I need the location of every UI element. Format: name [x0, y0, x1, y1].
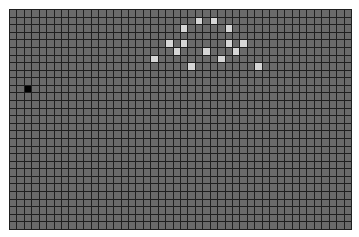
grid-cell[interactable]	[240, 71, 246, 78]
grid-cell[interactable]	[144, 101, 150, 108]
grid-cell[interactable]	[136, 101, 142, 108]
grid-cell[interactable]	[151, 162, 157, 169]
grid-cell[interactable]	[196, 33, 202, 40]
grid-cell[interactable]	[218, 147, 224, 154]
grid-cell[interactable]	[337, 78, 343, 85]
grid-cell[interactable]	[166, 147, 172, 154]
grid-cell[interactable]	[114, 10, 120, 17]
grid-cell[interactable]	[293, 40, 299, 47]
grid-cell[interactable]	[166, 63, 172, 70]
grid-cell[interactable]	[255, 40, 261, 47]
grid-cell[interactable]	[240, 25, 246, 32]
grid-cell[interactable]	[114, 162, 120, 169]
grid-cell[interactable]	[293, 78, 299, 85]
grid-cell[interactable]	[62, 10, 68, 17]
grid-cell[interactable]	[270, 25, 276, 32]
grid-cell[interactable]	[203, 192, 209, 199]
grid-cell[interactable]	[99, 78, 105, 85]
grid-cell[interactable]	[114, 101, 120, 108]
grid-cell[interactable]	[278, 131, 284, 138]
grid-cell[interactable]	[77, 109, 83, 116]
grid-cell[interactable]	[114, 56, 120, 63]
grid-cell[interactable]	[144, 93, 150, 100]
grid-cell[interactable]	[263, 93, 269, 100]
grid-cell[interactable]	[211, 40, 217, 47]
grid-cell[interactable]	[255, 177, 261, 184]
grid-cell[interactable]	[99, 71, 105, 78]
grid-cell[interactable]	[330, 33, 336, 40]
grid-cell[interactable]	[25, 169, 31, 176]
grid-cell[interactable]	[107, 215, 113, 222]
grid-cell[interactable]	[285, 33, 291, 40]
grid-cell[interactable]	[270, 215, 276, 222]
grid-cell[interactable]	[151, 124, 157, 131]
grid-cell[interactable]	[151, 93, 157, 100]
grid-cell[interactable]	[226, 154, 232, 161]
grid-cell[interactable]	[114, 116, 120, 123]
grid-cell[interactable]	[25, 222, 31, 229]
grid-cell[interactable]	[255, 222, 261, 229]
grid-cell[interactable]	[315, 154, 321, 161]
grid-cell[interactable]	[307, 124, 313, 131]
grid-cell[interactable]	[77, 207, 83, 214]
grid-cell[interactable]	[233, 192, 239, 199]
grid-cell[interactable]	[32, 215, 38, 222]
grid-cell[interactable]	[211, 56, 217, 63]
grid-cell[interactable]	[25, 63, 31, 70]
grid-cell[interactable]	[285, 177, 291, 184]
grid-cell[interactable]	[166, 184, 172, 191]
grid-cell[interactable]	[315, 78, 321, 85]
grid-cell[interactable]	[255, 169, 261, 176]
grid-cell[interactable]	[69, 124, 75, 131]
grid-cell[interactable]	[233, 33, 239, 40]
grid-cell[interactable]	[196, 147, 202, 154]
grid-cell[interactable]	[114, 207, 120, 214]
grid-cell[interactable]	[337, 116, 343, 123]
grid-cell[interactable]	[99, 131, 105, 138]
grid-cell[interactable]	[62, 93, 68, 100]
grid-cell[interactable]	[114, 147, 120, 154]
grid-cell[interactable]	[122, 33, 128, 40]
grid-cell[interactable]	[345, 200, 351, 207]
grid-cell[interactable]	[203, 215, 209, 222]
grid-cell[interactable]	[285, 101, 291, 108]
grid-cell[interactable]	[263, 10, 269, 17]
grid-cell[interactable]	[92, 18, 98, 25]
grid-cell[interactable]	[255, 131, 261, 138]
alive-cell[interactable]	[174, 48, 180, 55]
grid-cell[interactable]	[144, 184, 150, 191]
grid-cell[interactable]	[188, 177, 194, 184]
grid-cell[interactable]	[211, 116, 217, 123]
grid-cell[interactable]	[248, 40, 254, 47]
grid-cell[interactable]	[181, 154, 187, 161]
grid-cell[interactable]	[55, 48, 61, 55]
grid-cell[interactable]	[188, 192, 194, 199]
grid-cell[interactable]	[77, 192, 83, 199]
grid-cell[interactable]	[322, 63, 328, 70]
grid-cell[interactable]	[55, 184, 61, 191]
grid-cell[interactable]	[248, 192, 254, 199]
grid-cell[interactable]	[293, 177, 299, 184]
grid-cell[interactable]	[10, 200, 16, 207]
grid-cell[interactable]	[129, 147, 135, 154]
grid-cell[interactable]	[32, 124, 38, 131]
grid-cell[interactable]	[203, 139, 209, 146]
grid-cell[interactable]	[300, 147, 306, 154]
grid-cell[interactable]	[226, 139, 232, 146]
grid-cell[interactable]	[47, 162, 53, 169]
grid-cell[interactable]	[25, 116, 31, 123]
grid-cell[interactable]	[240, 139, 246, 146]
grid-cell[interactable]	[151, 78, 157, 85]
grid-cell[interactable]	[166, 56, 172, 63]
grid-cell[interactable]	[55, 207, 61, 214]
grid-cell[interactable]	[233, 63, 239, 70]
grid-cell[interactable]	[99, 139, 105, 146]
grid-cell[interactable]	[300, 169, 306, 176]
grid-cell[interactable]	[307, 40, 313, 47]
grid-cell[interactable]	[69, 71, 75, 78]
grid-cell[interactable]	[47, 93, 53, 100]
grid-cell[interactable]	[188, 109, 194, 116]
grid-cell[interactable]	[330, 131, 336, 138]
grid-cell[interactable]	[270, 139, 276, 146]
grid-cell[interactable]	[69, 116, 75, 123]
